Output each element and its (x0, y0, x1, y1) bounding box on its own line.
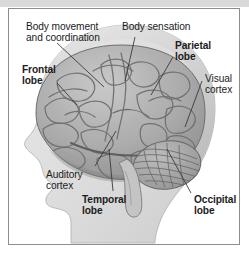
top-grey-band (0, 0, 249, 7)
label-auditory-cortex: Auditory cortex (46, 169, 83, 192)
label-frontal-lobe: Frontal lobe (22, 64, 56, 87)
label-temporal-lobe: Temporal lobe (82, 194, 126, 217)
illustration-frame: Body movement and coordination Body sens… (8, 8, 240, 245)
label-parietal-lobe: Parietal lobe (175, 40, 211, 63)
label-body-movement: Body movement and coordination (26, 21, 100, 44)
label-occipital-lobe: Occipital lobe (194, 194, 236, 217)
label-visual-cortex: Visual cortex (205, 73, 232, 96)
label-body-sensation: Body sensation (122, 21, 190, 32)
brain-diagram-figure: Body movement and coordination Body sens… (0, 0, 249, 257)
